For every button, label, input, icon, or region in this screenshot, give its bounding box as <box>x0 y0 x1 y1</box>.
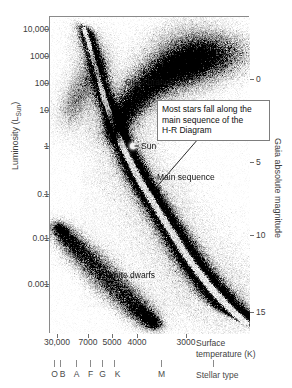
sun-marker <box>130 143 136 149</box>
hr-diagram-figure: 10,000 1000 100 10 1 0.1 0.01 0.001 0 5 … <box>0 0 292 388</box>
spectral-tick-A <box>76 360 77 367</box>
x-axis-title: Surface temperature (K) <box>196 338 288 359</box>
y-tick-label-right-0: 0 <box>256 75 261 84</box>
callout-line-2: main sequence of the <box>162 115 265 126</box>
spectral-label-A: A <box>71 370 82 379</box>
callout-line-3: H-R Diagram <box>162 125 265 136</box>
y-tick-label-right-10: 10 <box>256 231 265 240</box>
spectral-tick-K <box>114 360 115 367</box>
spectral-label-M: M <box>156 370 167 379</box>
x-axis-title-line1: Surface <box>196 338 288 349</box>
y-axis-title-left: Luminosity (LSun) <box>10 76 22 196</box>
y-tick-label-right-15: 15 <box>256 308 265 317</box>
x-tick-label-4000: 4000 <box>120 338 154 347</box>
star-scatter-plot <box>50 17 250 334</box>
y-axis-title-left-subscript: Sun <box>15 105 22 117</box>
y-tick-label-right-5: 5 <box>256 158 261 167</box>
x-axis-title-line2: temperature (K) <box>196 349 288 360</box>
spectral-label-F: F <box>85 370 96 379</box>
annotation-sun: Sun <box>141 141 156 151</box>
spectral-tick-title-pointer <box>213 360 214 367</box>
y-axis-title-left-text: Luminosity (L <box>10 116 20 170</box>
plot-area <box>49 16 249 333</box>
spectral-tick-B <box>60 360 61 367</box>
spectral-tick-M <box>161 360 162 367</box>
y-axis-title-left-paren: ) <box>10 102 20 105</box>
callout-box: Most stars fall along the main sequence … <box>157 100 270 141</box>
spectral-label-G: G <box>97 370 108 379</box>
spectral-axis-title: Stellar type <box>196 370 239 380</box>
spectral-tick-O <box>54 360 55 367</box>
spectral-tick-G <box>102 360 103 367</box>
y-axis-title-right: Gaia absolute magnitude <box>273 123 283 253</box>
annotation-main-sequence: Main sequence <box>157 172 215 182</box>
spectral-label-K: K <box>112 370 123 379</box>
spectral-label-B: B <box>57 370 68 379</box>
annotation-white-dwarfs: White dwarfs <box>106 270 155 280</box>
annotation-giant-branch: Giant branch <box>125 77 174 87</box>
callout-line-1: Most stars fall along the <box>162 104 265 115</box>
spectral-tick-F <box>90 360 91 367</box>
